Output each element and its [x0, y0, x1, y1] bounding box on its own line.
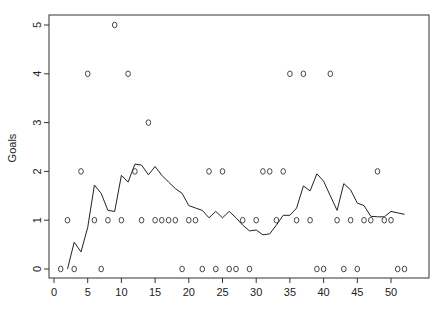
- plot-frame: [49, 15, 429, 278]
- x-tick-label: 50: [385, 286, 397, 298]
- x-tick-label: 30: [250, 286, 262, 298]
- data-point: [153, 217, 158, 223]
- data-point: [328, 71, 333, 77]
- data-point: [348, 217, 353, 223]
- data-point: [362, 217, 367, 223]
- data-point: [200, 266, 205, 272]
- data-point: [402, 266, 407, 272]
- data-point: [301, 71, 306, 77]
- data-point: [342, 266, 347, 272]
- data-points: [58, 22, 406, 272]
- data-point: [281, 169, 286, 175]
- data-point: [112, 22, 117, 28]
- data-point: [65, 217, 70, 223]
- data-point: [335, 217, 340, 223]
- data-point: [126, 71, 131, 77]
- data-point: [267, 169, 272, 175]
- data-point: [240, 217, 245, 223]
- data-point: [389, 217, 394, 223]
- y-axis-label: Goals: [6, 133, 18, 162]
- data-point: [85, 71, 90, 77]
- y-tick-label: 0: [31, 266, 43, 272]
- data-point: [288, 71, 293, 77]
- x-tick-label: 15: [149, 286, 161, 298]
- data-point: [315, 266, 320, 272]
- x-tick-label: 20: [183, 286, 195, 298]
- data-point: [308, 217, 313, 223]
- data-point: [173, 217, 178, 223]
- data-point: [274, 217, 279, 223]
- x-tick-label: 45: [351, 286, 363, 298]
- y-tick-label: 1: [31, 217, 43, 223]
- data-point: [193, 217, 198, 223]
- x-tick-label: 25: [216, 286, 228, 298]
- data-point: [180, 266, 185, 272]
- y-tick-label: 2: [31, 168, 43, 174]
- data-point: [355, 266, 360, 272]
- data-point: [207, 169, 212, 175]
- goals-chart: 05101520253035404550 012345 Goals: [0, 0, 441, 309]
- data-point: [106, 217, 111, 223]
- data-point: [139, 217, 144, 223]
- data-point: [133, 169, 138, 175]
- data-point: [99, 266, 104, 272]
- data-point: [261, 169, 266, 175]
- data-point: [234, 266, 239, 272]
- data-point: [294, 217, 299, 223]
- moving-average-line: [68, 164, 405, 269]
- data-point: [72, 266, 77, 272]
- data-point: [187, 217, 192, 223]
- x-axis: 05101520253035404550: [51, 278, 397, 298]
- x-tick-label: 5: [85, 286, 91, 298]
- data-point: [254, 217, 259, 223]
- data-point: [382, 217, 387, 223]
- data-point: [92, 217, 97, 223]
- data-point: [119, 217, 124, 223]
- x-tick-label: 10: [115, 286, 127, 298]
- data-point: [214, 266, 219, 272]
- data-point: [395, 266, 400, 272]
- y-axis: 012345: [31, 22, 49, 272]
- y-tick-label: 3: [31, 120, 43, 126]
- data-point: [146, 120, 151, 126]
- data-point: [58, 266, 63, 272]
- data-point: [166, 217, 171, 223]
- data-point: [247, 266, 252, 272]
- data-point: [160, 217, 165, 223]
- x-tick-label: 35: [284, 286, 296, 298]
- data-point: [79, 169, 84, 175]
- data-point: [220, 169, 225, 175]
- x-tick-label: 40: [317, 286, 329, 298]
- data-point: [321, 266, 326, 272]
- y-tick-label: 5: [31, 22, 43, 28]
- data-point: [227, 266, 232, 272]
- x-tick-label: 0: [51, 286, 57, 298]
- data-point: [369, 217, 374, 223]
- data-point: [375, 169, 380, 175]
- y-tick-label: 4: [31, 71, 43, 77]
